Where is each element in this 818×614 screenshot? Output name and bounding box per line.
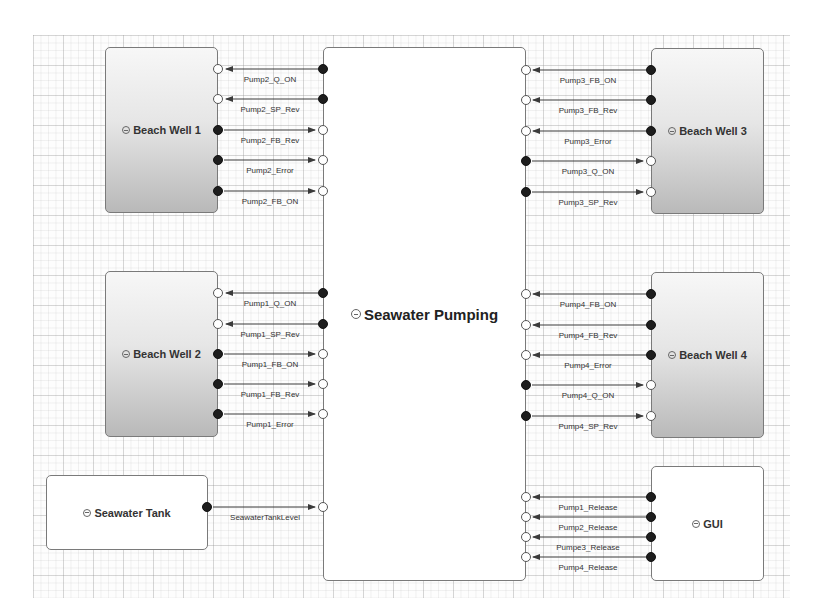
port-bw1-pump2-fb-rev-out[interactable]: [213, 125, 223, 135]
block-title: Beach Well 4: [668, 349, 747, 361]
port-center-pump4-sp-rev-out[interactable]: [521, 411, 531, 421]
port-center-pump4-fb-on-in[interactable]: [521, 289, 531, 299]
port-bw2-pump1-sp-rev-in[interactable]: [213, 319, 223, 329]
block-seawater-tank[interactable]: Seawater Tank: [46, 475, 208, 550]
port-center-tank-level-in[interactable]: [318, 502, 328, 512]
block-beach-well-3-label: Beach Well 3: [679, 125, 747, 137]
port-bw3-pump3-fb-rev-out[interactable]: [646, 95, 656, 105]
port-bw2-pump1-q-on-in[interactable]: [213, 288, 223, 298]
component-circle-icon: [83, 509, 91, 517]
port-center-pump3-fb-rev-in[interactable]: [521, 95, 531, 105]
signal-label: Pump1_Error: [246, 420, 294, 429]
port-center-pump4-release-in[interactable]: [521, 552, 531, 562]
block-beach-well-3[interactable]: Beach Well 3: [651, 48, 764, 214]
signal-label: SeawaterTankLevel: [230, 513, 300, 522]
component-circle-icon: [668, 351, 676, 359]
signal-label: Pump2_Q_ON: [244, 75, 296, 84]
port-center-pump4-q-on-out[interactable]: [521, 380, 531, 390]
port-center-pump3-release-in[interactable]: [521, 532, 531, 542]
signal-label: Pumpe3_Release: [556, 543, 620, 552]
port-bw1-pump2-q-on-in[interactable]: [213, 64, 223, 74]
port-bw4-pump4-fb-rev-out[interactable]: [646, 320, 656, 330]
block-gui[interactable]: GUI: [651, 466, 764, 581]
port-gui-pump3-release-out[interactable]: [646, 532, 656, 542]
signal-label: Pump3_FB_Rev: [559, 106, 618, 115]
port-bw4-pump4-fb-on-out[interactable]: [646, 289, 656, 299]
block-seawater-pumping[interactable]: Seawater Pumping: [323, 47, 526, 581]
block-title: Beach Well 2: [122, 348, 201, 360]
port-center-pump2-error-in[interactable]: [318, 155, 328, 165]
block-title: Beach Well 1: [122, 124, 201, 136]
port-center-pump2-fb-on-in[interactable]: [318, 186, 328, 196]
port-center-pump3-error-in[interactable]: [521, 126, 531, 136]
signal-label: Pump3_SP_Rev: [558, 198, 617, 207]
block-beach-well-2-label: Beach Well 2: [133, 348, 201, 360]
signal-label: Pump3_Q_ON: [562, 167, 614, 176]
port-gui-pump2-release-out[interactable]: [646, 512, 656, 522]
block-title: Seawater Pumping: [351, 306, 498, 323]
component-circle-icon: [692, 520, 700, 528]
port-tank-level-out[interactable]: [202, 502, 212, 512]
port-center-pump1-fb-on-in[interactable]: [318, 349, 328, 359]
port-bw2-pump1-error-out[interactable]: [213, 409, 223, 419]
port-center-pump2-fb-rev-in[interactable]: [318, 125, 328, 135]
port-center-pump2-sp-rev-out[interactable]: [318, 94, 328, 104]
block-beach-well-1[interactable]: Beach Well 1: [105, 47, 218, 213]
signal-label: Pump4_SP_Rev: [558, 422, 617, 431]
port-bw1-pump2-fb-on-out[interactable]: [213, 186, 223, 196]
port-bw4-pump4-sp-rev-in[interactable]: [646, 411, 656, 421]
port-center-pump2-q-on-out[interactable]: [318, 64, 328, 74]
port-bw3-pump3-sp-rev-in[interactable]: [646, 187, 656, 197]
port-bw3-pump3-fb-on-out[interactable]: [646, 65, 656, 75]
port-center-pump1-sp-rev-out[interactable]: [318, 319, 328, 329]
signal-label: Pump3_FB_ON: [560, 76, 616, 85]
signal-label: Pump3_Error: [564, 137, 612, 146]
port-bw3-pump3-error-out[interactable]: [646, 126, 656, 136]
port-center-pump3-q-on-out[interactable]: [521, 156, 531, 166]
block-beach-well-1-label: Beach Well 1: [133, 124, 201, 136]
port-center-pump3-fb-on-in[interactable]: [521, 65, 531, 75]
signal-label: Pump2_SP_Rev: [240, 105, 299, 114]
port-center-pump1-release-in[interactable]: [521, 492, 531, 502]
signal-label: Pump2_FB_ON: [242, 197, 298, 206]
port-bw4-pump4-error-out[interactable]: [646, 350, 656, 360]
port-center-pump3-sp-rev-out[interactable]: [521, 187, 531, 197]
signal-label: Pump2_FB_Rev: [241, 136, 300, 145]
port-center-pump1-fb-rev-in[interactable]: [318, 379, 328, 389]
port-center-pump4-fb-rev-in[interactable]: [521, 320, 531, 330]
port-gui-pump1-release-out[interactable]: [646, 492, 656, 502]
signal-label: Pump2_Release: [558, 523, 617, 532]
block-beach-well-2[interactable]: Beach Well 2: [105, 271, 218, 437]
component-circle-icon: [122, 126, 130, 134]
signal-label: Pump1_Q_ON: [244, 299, 296, 308]
component-circle-icon: [351, 309, 361, 319]
port-center-pump4-error-in[interactable]: [521, 350, 531, 360]
signal-label: Pump1_FB_ON: [242, 360, 298, 369]
block-beach-well-4-label: Beach Well 4: [679, 349, 747, 361]
port-gui-pump4-release-out[interactable]: [646, 552, 656, 562]
port-bw2-pump1-fb-on-out[interactable]: [213, 349, 223, 359]
signal-label: Pump1_Release: [558, 503, 617, 512]
signal-label: Pump1_SP_Rev: [240, 330, 299, 339]
port-bw1-pump2-sp-rev-in[interactable]: [213, 94, 223, 104]
block-title: Seawater Tank: [83, 507, 170, 519]
signal-label: Pump4_FB_ON: [560, 300, 616, 309]
block-title: Beach Well 3: [668, 125, 747, 137]
port-bw2-pump1-fb-rev-out[interactable]: [213, 379, 223, 389]
port-center-pump1-error-in[interactable]: [318, 409, 328, 419]
port-bw1-pump2-error-out[interactable]: [213, 155, 223, 165]
block-seawater-tank-label: Seawater Tank: [94, 507, 170, 519]
signal-label: Pump4_FB_Rev: [559, 331, 618, 340]
port-center-pump2-release-in[interactable]: [521, 512, 531, 522]
signal-label: Pump4_Q_ON: [562, 391, 614, 400]
port-bw3-pump3-q-on-in[interactable]: [646, 156, 656, 166]
block-beach-well-4[interactable]: Beach Well 4: [651, 272, 764, 438]
signal-label: Pump4_Error: [564, 361, 612, 370]
component-circle-icon: [122, 350, 130, 358]
component-circle-icon: [668, 127, 676, 135]
port-center-pump1-q-on-out[interactable]: [318, 288, 328, 298]
block-seawater-pumping-label: Seawater Pumping: [364, 306, 498, 323]
signal-label: Pump2_Error: [246, 166, 294, 175]
port-bw4-pump4-q-on-in[interactable]: [646, 380, 656, 390]
diagram-canvas: Seawater Pumping Beach Well 1 Beach Well…: [0, 0, 818, 614]
